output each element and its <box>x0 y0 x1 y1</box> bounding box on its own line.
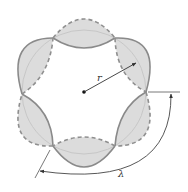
standing-wave-diagram: r λ <box>0 0 188 192</box>
wavelength-arc <box>40 94 171 174</box>
wavelength-label: λ <box>117 168 124 179</box>
wavelength-tick-left <box>35 150 50 178</box>
radius-label: r <box>97 72 103 83</box>
